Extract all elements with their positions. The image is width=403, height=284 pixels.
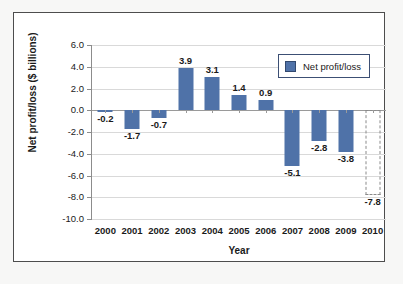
bar-group-2006[interactable]: 0.9 (252, 45, 279, 219)
y-axis-tick (87, 45, 91, 46)
bar-value-label-2009: -3.8 (338, 154, 354, 164)
bar-2005[interactable] (231, 95, 246, 110)
bar-group-2002[interactable]: -0.7 (145, 45, 172, 219)
x-axis-tick (239, 110, 240, 113)
bar-value-label-2000: -0.2 (97, 114, 113, 124)
bar-2004[interactable] (205, 77, 220, 111)
y-axis-tick-label: -6.0 (44, 171, 84, 181)
bar-2006[interactable] (258, 100, 273, 110)
y-axis-tick-label: -8.0 (44, 193, 84, 203)
x-axis-tick (292, 110, 293, 113)
y-axis-tick-label: -4.0 (44, 149, 84, 159)
x-axis-tick (105, 110, 106, 113)
y-axis-tick (87, 89, 91, 90)
bar-group-2000[interactable]: -0.2 (92, 45, 119, 219)
bar-2009[interactable] (338, 110, 353, 151)
x-axis-tick-label-2004: 2004 (202, 225, 223, 236)
x-axis-tick-label-2009: 2009 (335, 225, 356, 236)
x-axis-tick (346, 110, 347, 113)
x-axis-tick-label-2008: 2008 (309, 225, 330, 236)
x-axis-tick-label-2005: 2005 (228, 225, 249, 236)
x-axis-tick (212, 110, 213, 113)
y-axis-tick-label: 6.0 (44, 40, 84, 50)
bar-value-label-2006: 0.9 (259, 88, 272, 98)
bar-value-label-2008: -2.8 (311, 143, 327, 153)
x-axis-tick (186, 110, 187, 113)
x-axis-tick-label-2006: 2006 (255, 225, 276, 236)
bar-2003[interactable] (178, 68, 193, 110)
bar-value-label-2002: -0.7 (151, 120, 167, 130)
x-axis-tick (159, 110, 160, 113)
y-axis-tick-label: 0.0 (44, 106, 84, 116)
chart-frame: 6.04.02.00.0-2.0-4.0-6.0-8.0-10.0 Net pr… (13, 12, 385, 262)
x-axis-tick-label-2002: 2002 (148, 225, 169, 236)
y-axis-tick-label: 4.0 (44, 62, 84, 72)
chart-legend[interactable]: Net profit/loss (278, 54, 370, 78)
y-axis-tick-label: -10.0 (44, 214, 84, 224)
bar-2008[interactable] (312, 110, 327, 140)
bar-value-label-2005: 1.4 (232, 83, 245, 93)
bar-value-label-2004: 3.1 (206, 65, 219, 75)
bar-value-label-2010: -7.8 (364, 197, 380, 207)
bar-group-2004[interactable]: 3.1 (199, 45, 226, 219)
x-axis-title: Year (92, 245, 386, 256)
x-axis-tick (319, 110, 320, 113)
bar-2010[interactable] (365, 110, 380, 195)
bar-group-2001[interactable]: -1.7 (119, 45, 146, 219)
legend-label-net-profit-loss: Net profit/loss (303, 61, 361, 72)
bar-value-label-2007: -5.1 (284, 168, 300, 178)
y-axis-tick (87, 132, 91, 133)
bar-2007[interactable] (285, 110, 300, 165)
x-axis-tick (266, 110, 267, 113)
x-axis-tick (132, 110, 133, 113)
y-axis-tick-label: -2.0 (44, 127, 84, 137)
gridline (92, 219, 386, 220)
y-axis-tick-labels: 6.04.02.00.0-2.0-4.0-6.0-8.0-10.0 (40, 13, 84, 284)
y-axis-tick (87, 110, 91, 111)
x-axis-tick-label-2003: 2003 (175, 225, 196, 236)
bar-group-2005[interactable]: 1.4 (226, 45, 253, 219)
bar-value-label-2003: 3.9 (179, 56, 192, 66)
y-axis-tick-label: 2.0 (44, 84, 84, 94)
y-axis-tick (87, 197, 91, 198)
x-axis-tick-label-2000: 2000 (95, 225, 116, 236)
y-axis-tick (87, 219, 91, 220)
legend-swatch-net-profit-loss (285, 61, 296, 72)
y-axis-title: Net profit/loss ($ billions) (27, 13, 38, 173)
bar-value-label-2001: -1.7 (124, 131, 140, 141)
y-axis-tick (87, 154, 91, 155)
x-axis-tick (373, 110, 374, 113)
bar-group-2003[interactable]: 3.9 (172, 45, 199, 219)
x-axis-tick-label-2001: 2001 (122, 225, 143, 236)
y-axis-tick (87, 176, 91, 177)
y-axis-tick (87, 67, 91, 68)
x-axis-tick-label-2007: 2007 (282, 225, 303, 236)
chart-screenshot: 6.04.02.00.0-2.0-4.0-6.0-8.0-10.0 Net pr… (0, 0, 403, 284)
x-axis-tick-labels: 2000200120022003200420052006200720082009… (92, 225, 386, 239)
x-axis-tick-label-2010: 2010 (362, 225, 383, 236)
